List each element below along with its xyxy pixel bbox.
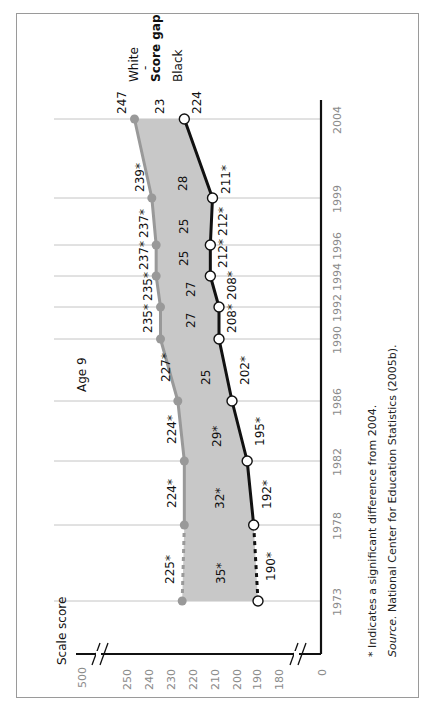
tick-label: 0 bbox=[316, 669, 329, 676]
year-label: 1978 bbox=[331, 512, 344, 540]
white-value-label: 235* bbox=[141, 304, 155, 333]
white-value-label: 247 bbox=[115, 91, 129, 114]
white-value-label: 237* bbox=[137, 209, 151, 238]
gap-value-label: 29* bbox=[210, 426, 224, 447]
year-label: 1994 bbox=[331, 263, 344, 291]
black-point bbox=[249, 520, 259, 530]
tick-label: 240 bbox=[143, 669, 156, 690]
value-axis-ticks: 0180190200210220230240250500 bbox=[76, 667, 329, 690]
legend-black: Black bbox=[171, 49, 185, 82]
year-axis-labels: 1973197819821986199019921994199619992004 bbox=[331, 106, 344, 616]
gap-value-label: 25 bbox=[199, 370, 213, 385]
black-point bbox=[214, 302, 224, 312]
tick-label: 200 bbox=[231, 669, 244, 690]
black-value-label: 208* bbox=[225, 271, 239, 300]
year-label: 1992 bbox=[331, 294, 344, 322]
black-value-label: 195* bbox=[253, 417, 267, 446]
black-point bbox=[253, 596, 263, 606]
black-value-label: 192* bbox=[260, 480, 274, 509]
white-point bbox=[180, 521, 189, 530]
tick-label: 180 bbox=[273, 669, 286, 690]
black-value-label: 224 bbox=[190, 91, 204, 114]
white-value-label: 227* bbox=[159, 353, 173, 382]
tick-label: 250 bbox=[121, 669, 134, 690]
gap-value-label: 32* bbox=[213, 488, 227, 509]
white-point bbox=[156, 335, 165, 344]
tick-label: 210 bbox=[209, 669, 222, 690]
year-label: 1986 bbox=[331, 388, 344, 416]
year-label: 1999 bbox=[331, 185, 344, 213]
axis-title: Scale score bbox=[55, 597, 69, 665]
black-value-label: 190* bbox=[264, 552, 278, 581]
source-note: Source. National Center for Education St… bbox=[386, 344, 399, 657]
gap-value-label: 25 bbox=[177, 219, 191, 234]
gap-value-label: 25 bbox=[177, 251, 191, 266]
black-value-label: 211* bbox=[219, 165, 233, 194]
footnote: * Indicates a significant difference fro… bbox=[366, 405, 379, 657]
gap-value-label: 27 bbox=[184, 282, 198, 297]
white-point bbox=[178, 597, 187, 606]
black-value-label: 212* bbox=[216, 239, 230, 268]
white-value-label: 239* bbox=[133, 163, 147, 192]
white-value-label: 225* bbox=[163, 555, 177, 584]
black-point bbox=[208, 193, 218, 203]
year-label: 1982 bbox=[331, 448, 344, 476]
gap-value-label: 28 bbox=[176, 176, 190, 191]
white-point bbox=[152, 241, 161, 250]
black-point bbox=[242, 456, 252, 466]
tick-label: 190 bbox=[251, 669, 264, 690]
panel-label: Age 9 bbox=[75, 357, 89, 392]
white-point bbox=[180, 457, 189, 466]
tick-label: 220 bbox=[187, 669, 200, 690]
year-label: 2004 bbox=[331, 106, 344, 134]
white-value-label: 224* bbox=[165, 415, 179, 444]
black-value-label: 212* bbox=[216, 207, 230, 236]
gap-value-label: 23 bbox=[153, 99, 167, 114]
black-value-label: 208* bbox=[225, 304, 239, 333]
white-point bbox=[147, 194, 156, 203]
legend: White - Score gap Black bbox=[127, 14, 185, 82]
year-label: 1996 bbox=[331, 232, 344, 260]
legend-gap: Score gap bbox=[149, 14, 163, 82]
gap-value-label: 27 bbox=[184, 313, 198, 328]
white-value-label: 235* bbox=[141, 272, 155, 301]
gap-value-label: 35* bbox=[214, 563, 228, 584]
black-point bbox=[205, 271, 215, 281]
white-point bbox=[156, 303, 165, 312]
white-value-label: 224* bbox=[165, 479, 179, 508]
black-point bbox=[214, 334, 224, 344]
year-label: 1973 bbox=[331, 588, 344, 616]
black-point bbox=[227, 396, 237, 406]
chart: 225*190*35*224*192*32*224*195*29*227*202… bbox=[0, 0, 432, 710]
white-point bbox=[173, 397, 182, 406]
tick-label: 230 bbox=[165, 669, 178, 690]
black-point bbox=[179, 114, 189, 124]
black-point bbox=[205, 240, 215, 250]
year-label: 1990 bbox=[331, 326, 344, 354]
white-point bbox=[130, 115, 139, 124]
legend-white: White bbox=[127, 47, 141, 82]
white-value-label: 237* bbox=[137, 241, 151, 270]
black-value-label: 202* bbox=[238, 356, 252, 385]
tick-label: 500 bbox=[76, 667, 89, 688]
